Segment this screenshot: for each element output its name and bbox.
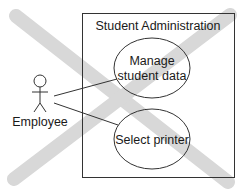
use-case-label-line-1: Manage [129, 54, 174, 68]
stick-figure-icon [32, 75, 48, 112]
use-case-label-select-printer: Select printer [115, 133, 189, 147]
use-case-label-line-2: student data [118, 69, 187, 83]
actor-label: Employee [12, 115, 68, 129]
use-case-diagram: Student Administration Manage student da… [0, 0, 247, 193]
system-title: Student Administration [95, 19, 220, 33]
